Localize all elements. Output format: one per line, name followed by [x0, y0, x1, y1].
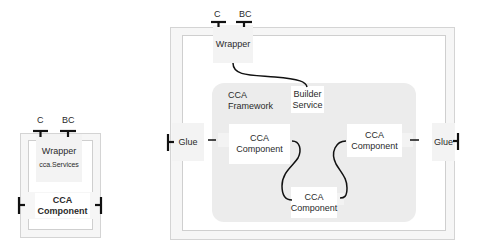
connector-lines [0, 0, 477, 252]
